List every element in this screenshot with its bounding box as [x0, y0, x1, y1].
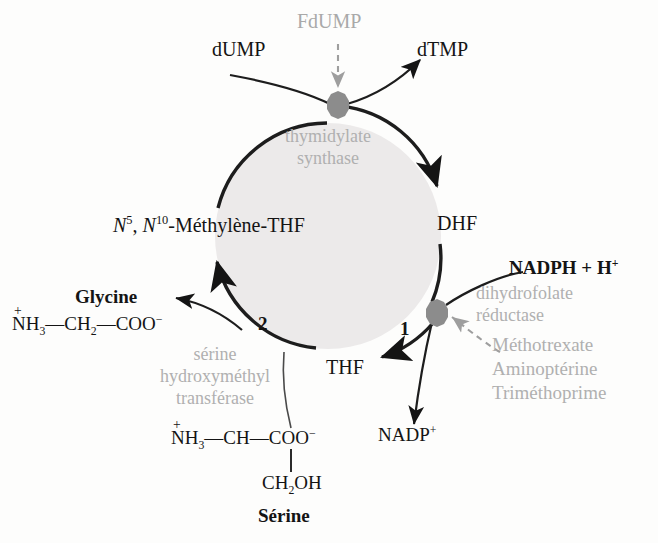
label-serine-hydroxymethyl-transferase: sérine hydroxyméthyl transférase: [125, 344, 305, 410]
label-dtmp: dTMP: [417, 38, 468, 60]
glycine-bond1: —: [45, 313, 64, 334]
label-thf: THF: [326, 356, 364, 378]
glycine-bond2: —: [97, 313, 116, 334]
dihydrofolate-reductase-node: [426, 299, 448, 327]
serine-nh3-sub: 3: [198, 439, 204, 452]
label-nadph: NADPH + H+: [509, 257, 618, 279]
methylene-sup2: 10: [156, 213, 168, 227]
glycine-ch2: CH: [64, 313, 90, 334]
label-dump: dUMP: [212, 38, 265, 60]
label-nadp-plus: NADP+: [378, 424, 436, 446]
nadph-charge: +: [612, 257, 619, 270]
methylene-rest: -Méthylène-THF: [168, 214, 305, 236]
label-serine: Sérine: [258, 505, 310, 526]
thymidylate-synthase-line1: thymidylate: [268, 126, 388, 148]
diagram-canvas: dUMP FdUMP dTMP thymidylate synthase N5,…: [0, 0, 658, 543]
thymidylate-synthase-node: [327, 91, 349, 119]
arrow-dump-in: [230, 75, 330, 104]
methylene-n2: N: [143, 214, 156, 236]
thymidylate-synthase-line2: synthase: [268, 148, 388, 170]
serine-coo-charge: −: [309, 427, 316, 440]
glycine-nh3-sub: 3: [39, 325, 45, 338]
inhibitor-methotrexate: Méthotrexate: [492, 333, 652, 357]
serine-coo: COO: [269, 427, 309, 448]
inhibitor-trimethoprime: Triméthoprime: [492, 381, 652, 405]
serine-ch2: CH: [262, 472, 288, 493]
shmt-line2: hydroxyméthyl: [125, 366, 305, 388]
serine-charge: +: [173, 417, 181, 432]
antifolate-inhibitor-list: Méthotrexate Aminoptérine Triméthoprime: [492, 333, 652, 404]
step-marker-1: 1: [400, 318, 410, 339]
label-fdump: FdUMP: [297, 10, 361, 32]
shmt-line3: transférase: [125, 388, 305, 410]
methylene-sep: ,: [133, 214, 143, 236]
inhibitor-aminopterine: Aminoptérine: [492, 357, 652, 381]
glycine-coo: COO: [116, 313, 156, 334]
arrow-glycine-out: [176, 298, 242, 330]
serine-nh3-group: +NH3: [171, 427, 204, 452]
serine-side-chain: CH2OH: [262, 472, 322, 497]
glycine-nh3-group: +NH3: [12, 313, 45, 338]
step-marker-2: 2: [258, 313, 268, 334]
label-dhf: DHF: [437, 212, 477, 234]
nadp-text: NADP: [378, 424, 430, 445]
dhfr-line1: dihydrofolate: [476, 283, 636, 305]
serine-bond2: —: [250, 427, 269, 448]
nadph-text: NADPH + H: [509, 257, 612, 278]
glycine-charge: +: [14, 303, 22, 318]
dhfr-line2: réductase: [476, 305, 636, 327]
glycine-coo-charge: −: [156, 313, 163, 326]
label-thymidylate-synthase: thymidylate synthase: [268, 126, 388, 170]
serine-oh: OH: [294, 472, 321, 493]
label-dihydrofolate-reductase: dihydrofolate réductase: [476, 283, 636, 327]
serine-ch: CH: [223, 427, 249, 448]
nadp-charge: +: [430, 424, 437, 437]
shmt-line1: sérine: [125, 344, 305, 366]
arrow-dtmp-out: [347, 60, 420, 104]
methylene-n1: N: [113, 214, 126, 236]
glycine-structure: +NH3—CH2—COO−: [12, 313, 162, 338]
label-methylene-thf: N5, N10-Méthylène-THF: [113, 214, 305, 236]
serine-structure: +NH3—CH—COO−: [171, 427, 316, 452]
serine-bond1: —: [204, 427, 223, 448]
label-glycine: Glycine: [75, 286, 137, 307]
